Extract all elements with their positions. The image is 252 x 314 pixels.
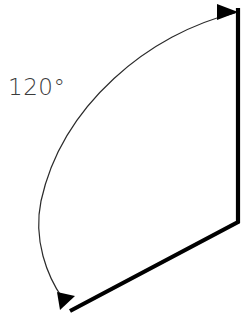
angle-rays-polyline	[70, 8, 238, 311]
arc-arrow-bottom-icon	[57, 292, 75, 310]
angle-measure-label: 120°	[8, 74, 65, 100]
sweep-arc	[39, 13, 235, 299]
arc-arrow-top-icon	[217, 4, 238, 20]
angle-diagram-canvas: 120°	[0, 0, 252, 314]
angle-diagram-svg	[0, 0, 252, 314]
